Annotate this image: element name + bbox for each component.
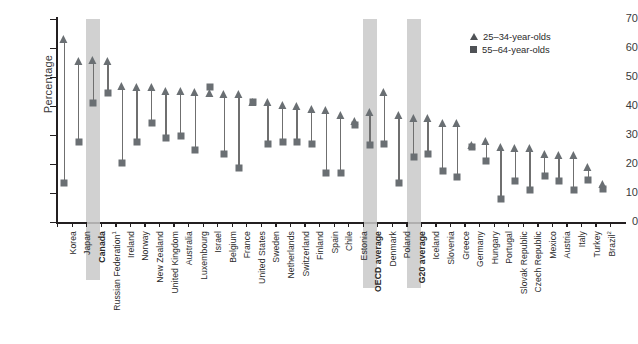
x-axis-label-spain: Spain xyxy=(330,231,340,253)
legend-label-young: 25–34-year-olds xyxy=(483,30,551,43)
x-axis-label-germany: Germany xyxy=(475,231,485,267)
x-axis-label-poland: Poland xyxy=(402,231,412,258)
x-axis-label-iceland: Iceland xyxy=(431,231,441,259)
x-axis-label-estonia: Estonia xyxy=(359,231,369,260)
x-axis-label-luxembourg: Luxembourg xyxy=(199,231,209,280)
x-axis-label-switzerland: Switzerland xyxy=(301,231,311,277)
x-axis-label-slovenia: Slovenia xyxy=(446,231,456,265)
x-axis-label-portugal: Portugal xyxy=(504,231,514,264)
x-axis-label-canada: Canada xyxy=(97,231,107,263)
x-axis-label-italy: Italy xyxy=(577,231,587,247)
legend-item-old: 55–64-year-olds xyxy=(470,43,551,56)
chart-legend: 25–34-year-olds 55–64-year-olds xyxy=(470,30,551,56)
x-axis-label-slovak-republic: Slovak Republic xyxy=(519,231,529,294)
x-axis-label-france: France xyxy=(242,231,252,258)
x-axis-label-ireland: Ireland xyxy=(126,231,136,258)
x-axis-label-israel: Israel xyxy=(213,231,223,253)
x-axis-label-greece: Greece xyxy=(461,231,471,260)
x-axis-label-g20-average: G20 average xyxy=(417,231,427,283)
x-axis-label-austria: Austria xyxy=(562,231,572,258)
x-axis-label-japan: Japan xyxy=(82,231,92,255)
x-axis-label-finland: Finland xyxy=(315,231,325,260)
x-axis-label-denmark: Denmark xyxy=(388,231,398,267)
x-axis-label-korea: Korea xyxy=(68,231,78,254)
x-axis-label-australia: Australia xyxy=(184,231,194,265)
x-axis-label-mexico: Mexico xyxy=(548,231,558,259)
x-axis-label-chile: Chile xyxy=(344,231,354,251)
legend-item-young: 25–34-year-olds xyxy=(470,30,551,43)
x-axis-label-new-zealand: New Zealand xyxy=(155,231,165,283)
x-axis-label-oecd-average: OECD average xyxy=(373,231,383,292)
x-axis-label-united-states: United States xyxy=(257,231,267,284)
chart-container: Percentage 010203040506070 KoreaJapanCan… xyxy=(0,0,638,344)
x-axis-label-czech-republic: Czech Republic xyxy=(533,231,543,293)
x-axis-label-norway: Norway xyxy=(140,231,150,261)
x-axis-label-brazil: Brazil2 xyxy=(606,231,617,257)
x-axis-label-belgium: Belgium xyxy=(228,231,238,263)
x-axis-label-turkey: Turkey xyxy=(592,231,602,258)
legend-label-old: 55–64-year-olds xyxy=(482,43,550,56)
x-axis-label-netherlands: Netherlands xyxy=(286,231,296,278)
x-axis-label-sweden: Sweden xyxy=(271,231,281,263)
square-marker-icon xyxy=(470,46,477,53)
x-axis-label-russian-federation: Russian Federation1 xyxy=(111,231,122,311)
x-axis-label-hungary: Hungary xyxy=(490,231,500,264)
triangle-marker-icon xyxy=(470,33,478,40)
x-axis-label-united-kingdom: United Kingdom xyxy=(170,231,180,294)
